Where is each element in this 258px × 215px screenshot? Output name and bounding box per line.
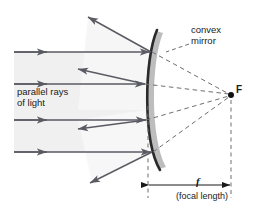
- dashed-extension-1: [152, 52, 229, 94]
- dashed-extension-4: [153, 97, 229, 152]
- focal-point-dot: [228, 92, 234, 98]
- focal-length-symbol: f: [196, 176, 200, 187]
- dashed-extension-3: [146, 96, 229, 120]
- focal-point-label: F: [236, 84, 242, 95]
- convex-mirror-label: convex mirror: [191, 24, 221, 46]
- dashed-extension-2: [145, 84, 229, 94]
- parallel-rays-label: parallel rays of light: [17, 86, 68, 108]
- mirror-label-leader: [166, 44, 189, 52]
- dashed-focal-extensions-group: [145, 52, 229, 152]
- focal-length-caption: (focal length): [176, 191, 228, 202]
- convex-mirror-diagram: convex mirror parallel rays of light F f…: [0, 0, 258, 215]
